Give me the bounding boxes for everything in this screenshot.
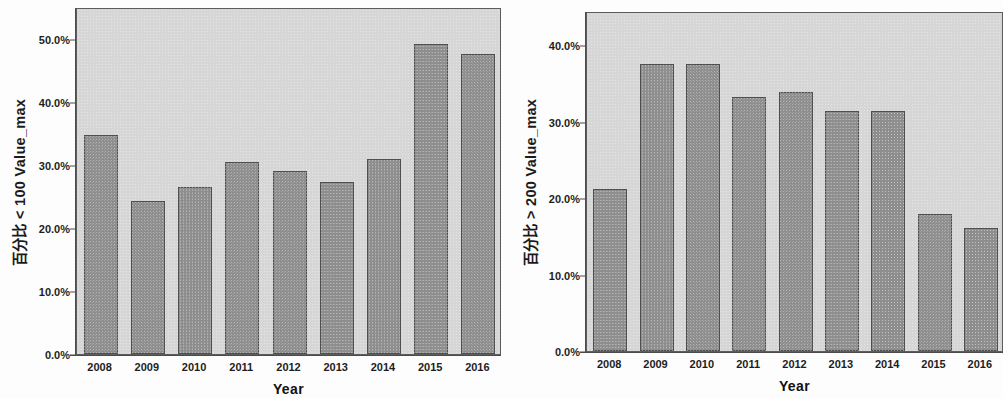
left-chart-y-tick-label: 10.0% <box>39 286 70 298</box>
right-chart-y-axis-title: 百分比 > 200 Value_max <box>519 13 540 353</box>
right-chart-y-tick-label: 20.0% <box>549 193 580 205</box>
right-chart-x-axis-line <box>580 352 1003 353</box>
right-chart-bar-series <box>587 13 1002 351</box>
bar-2015 <box>918 214 952 351</box>
bar-2013 <box>825 111 859 351</box>
right-chart-y-tick-label: 30.0% <box>549 117 580 129</box>
right-chart-y-tick-label: 40.0% <box>549 40 580 52</box>
right-chart-x-tick-label: 2015 <box>921 358 945 370</box>
left-chart-x-axis-title: Year <box>273 381 304 397</box>
bar-2008 <box>593 189 627 351</box>
left-chart-x-tick-label: 2012 <box>276 361 300 373</box>
left-chart-y-axis-title: 百分比 < 100 Value_max <box>8 9 29 356</box>
left-chart-y-tick-label: 20.0% <box>39 223 70 235</box>
right-chart-x-tick-label: 2010 <box>690 358 714 370</box>
bar-2011 <box>225 162 259 354</box>
left-chart-panel: 百分比 < 100 Value_max 0.0%10.0%20.0%30.0%4… <box>0 0 501 398</box>
right-chart-x-tick-label: 2014 <box>875 358 899 370</box>
right-chart-x-tick-label: 2013 <box>829 358 853 370</box>
bar-2016 <box>964 228 998 351</box>
left-chart-x-tick-label: 2009 <box>135 361 159 373</box>
left-chart-y-tick-label: 50.0% <box>39 34 70 46</box>
bar-2012 <box>779 92 813 351</box>
bar-2009 <box>640 64 674 351</box>
left-chart-x-tick-label: 2014 <box>371 361 395 373</box>
left-chart-x-tick-label: 2015 <box>418 361 442 373</box>
left-chart-y-tick-label: 0.0% <box>45 349 70 361</box>
left-chart-plot-area <box>76 8 501 355</box>
left-chart-y-tick-label: 30.0% <box>39 160 70 172</box>
right-chart-x-tick-label: 2016 <box>968 358 992 370</box>
bar-2010 <box>686 64 720 351</box>
right-chart-panel: 百分比 > 200 Value_max 0.0%10.0%20.0%30.0%4… <box>501 0 1003 398</box>
right-chart-x-axis-title: Year <box>779 378 810 394</box>
bar-2008 <box>84 135 118 354</box>
left-chart-x-axis-line <box>70 355 501 356</box>
left-chart-x-tick-label: 2010 <box>182 361 206 373</box>
bar-2012 <box>273 171 307 354</box>
right-chart-x-tick-label: 2009 <box>643 358 667 370</box>
left-chart-x-tick-label: 2011 <box>229 361 253 373</box>
right-chart-y-tick-label: 10.0% <box>549 270 580 282</box>
right-chart-x-tick-label: 2012 <box>782 358 806 370</box>
right-chart-plot-area <box>586 12 1003 352</box>
bar-2016 <box>461 54 495 354</box>
bar-2011 <box>732 97 766 351</box>
bar-2014 <box>871 111 905 351</box>
right-chart-x-tick-label: 2011 <box>736 358 760 370</box>
dual-bar-chart-figure: 百分比 < 100 Value_max 0.0%10.0%20.0%30.0%4… <box>0 0 1003 398</box>
left-chart-y-tick-label: 40.0% <box>39 97 70 109</box>
left-chart-bar-series <box>77 9 500 354</box>
right-chart-y-tick-label: 0.0% <box>555 346 580 358</box>
bar-2009 <box>131 201 165 354</box>
bar-2014 <box>367 159 401 354</box>
left-chart-x-tick-label: 2013 <box>323 361 347 373</box>
bar-2015 <box>414 44 448 354</box>
bar-2013 <box>320 182 354 354</box>
left-chart-x-tick-label: 2008 <box>87 361 111 373</box>
left-chart-x-tick-label: 2016 <box>465 361 489 373</box>
right-chart-x-tick-label: 2008 <box>597 358 621 370</box>
bar-2010 <box>178 187 212 354</box>
